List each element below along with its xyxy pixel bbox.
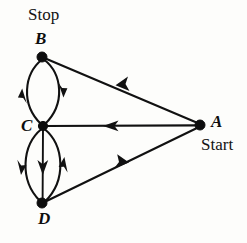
edge-a-to-c <box>45 121 196 132</box>
edge-c-to-d-straight <box>37 129 48 201</box>
node-d-label: D <box>38 210 50 227</box>
edge-c-to-d-left-curve-path <box>26 129 42 201</box>
node-c-dot[interactable] <box>38 121 47 130</box>
node-a-dot[interactable] <box>195 120 205 130</box>
edge-a-to-b <box>46 59 197 123</box>
node-b-dot[interactable] <box>37 52 47 62</box>
edge-d-to-c-right-curve-path <box>45 129 61 202</box>
graph-diagram: Stop B C D A Start <box>0 0 247 243</box>
edge-d-to-a-arrowhead <box>114 154 129 168</box>
edge-c-to-b-arrowhead <box>18 89 27 104</box>
node-a-label: A <box>211 113 223 130</box>
node-c-label: C <box>21 117 33 134</box>
edge-a-to-c-line <box>45 125 196 126</box>
edge-d-to-c-right-curve <box>45 129 68 202</box>
edge-b-to-c-curve-path <box>44 60 59 125</box>
edge-c-to-b-curve-path <box>27 60 42 125</box>
edge-a-to-b-line <box>46 59 197 123</box>
edge-d-to-a <box>45 128 198 202</box>
node-d-dot[interactable] <box>37 198 47 208</box>
node-b-label: B <box>35 30 47 47</box>
node-a-annotation-start: Start <box>201 136 233 153</box>
edge-c-to-b-curve <box>18 60 42 125</box>
edge-b-to-c-curve <box>44 60 67 125</box>
node-b-annotation-stop: Stop <box>28 6 59 23</box>
edge-c-to-d-left-curve <box>17 129 41 201</box>
